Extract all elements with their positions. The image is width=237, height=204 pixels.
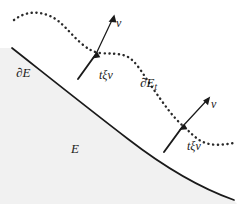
label-boundary-Et-subscript: t [154, 82, 157, 92]
label-normal-lower: ν [211, 98, 216, 110]
label-normal-upper: ν [116, 17, 121, 29]
normal-vector-shaft-upper [96, 18, 113, 54]
label-displacement-upper: tξν [99, 69, 113, 81]
label-boundary-Et-prefix: ∂E [140, 75, 154, 90]
label-displacement-lower: tξν [187, 140, 201, 152]
normal-vector-shaft-lower [183, 99, 208, 126]
diagram-canvas [0, 0, 237, 204]
figure-container: ∂E ∂Et E ν ν tξν tξν [0, 0, 237, 204]
label-boundary-Et: ∂Et [140, 76, 157, 92]
label-boundary-E: ∂E [16, 66, 30, 79]
label-set-E: E [71, 142, 79, 155]
region-E-fill [0, 48, 237, 204]
